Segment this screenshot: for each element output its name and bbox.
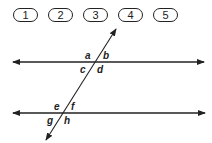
- angle-label-b: b: [103, 50, 109, 61]
- angle-label-g: g: [46, 115, 53, 126]
- angle-label-e: e: [54, 101, 60, 112]
- angle-label-a: a: [85, 50, 91, 61]
- angle-label-d: d: [97, 64, 104, 75]
- angle-label-f: f: [71, 101, 76, 112]
- angle-label-h: h: [64, 115, 70, 126]
- parallel-lines-diagram: a b c d e f g h: [0, 0, 212, 143]
- angle-label-c: c: [80, 64, 86, 75]
